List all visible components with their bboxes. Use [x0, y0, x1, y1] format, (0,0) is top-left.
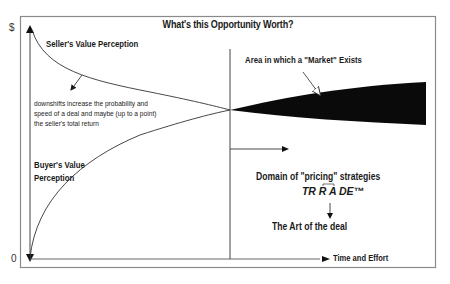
downshift-arrow: [71, 75, 82, 90]
trade-down-arrow-icon: [327, 213, 333, 219]
buyer-value-label-line1: Buyer's Value: [34, 158, 85, 171]
market-area-label: Area in which a "Market" Exists: [245, 54, 362, 65]
buyer-value-label: Buyer's Value Perception: [34, 158, 85, 184]
market-pointer-arrow: [303, 72, 320, 95]
downshift-note-line3: the seller's total return: [34, 119, 156, 129]
downshift-note: downshifts increase the probability and …: [34, 99, 156, 129]
market-area-wedge: [230, 82, 426, 125]
pricing-arrow-icon: [282, 146, 289, 152]
downshift-note-line2: speed of a deal and maybe (up to a point…: [34, 109, 156, 119]
downshift-note-line1: downshifts increase the probability and: [34, 99, 156, 109]
buyer-value-curve: [30, 110, 230, 258]
seller-value-label: Seller's Value Perception: [46, 38, 138, 49]
y-axis-zero-label: 0: [11, 253, 17, 264]
pricing-domain-label: Domain of "pricing" strategies: [256, 171, 428, 182]
trade-mark-label: TR R A DE™: [262, 185, 404, 197]
diagram-title: What's this Opportunity Worth?: [32, 18, 424, 30]
x-axis-arrow-icon: [322, 256, 330, 262]
art-of-deal-label: The Art of the deal: [272, 221, 410, 232]
x-axis-label: Time and Effort: [333, 253, 388, 263]
buyer-value-label-line2: Perception: [34, 171, 85, 184]
y-axis-dollar-label: $: [9, 22, 15, 33]
